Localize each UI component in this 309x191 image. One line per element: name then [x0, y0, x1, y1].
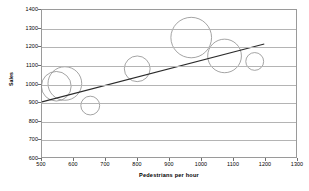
bubble-marker: [41, 71, 71, 101]
gridline: [42, 85, 296, 86]
x-axis-tick-label: 1300: [291, 161, 303, 167]
bubble-marker: [171, 17, 212, 57]
x-axis-tick-label: 1200: [259, 161, 271, 167]
gridline: [42, 66, 296, 67]
y-axis-tick-labels: 60070080090010001100120013001400: [0, 0, 38, 191]
bubble-marker: [208, 39, 242, 73]
x-axis-tick-mark: [265, 158, 266, 161]
y-axis-tick-mark: [38, 139, 41, 140]
y-axis-tick-mark: [38, 28, 41, 29]
x-axis-tick-label: 600: [68, 161, 77, 167]
x-axis-tick-label: 1000: [195, 161, 207, 167]
y-axis-tick-label: 1200: [26, 43, 38, 49]
data-layer: [42, 10, 296, 157]
y-axis-tick-label: 1100: [26, 62, 38, 68]
y-axis-tick-label: 1400: [26, 6, 38, 12]
x-axis-tick-label: 700: [100, 161, 109, 167]
y-axis-tick-mark: [38, 102, 41, 103]
bubble-marker: [48, 67, 82, 101]
bubble-chart: 60070080090010001100120013001400 Sales 5…: [0, 0, 309, 191]
x-axis-tick-mark: [105, 158, 106, 161]
gridline: [42, 47, 296, 48]
x-axis-tick-mark: [233, 158, 234, 161]
x-axis-tick-label: 1100: [227, 161, 239, 167]
bubble-marker: [246, 53, 264, 71]
y-axis-tick-mark: [38, 121, 41, 122]
y-axis-tick-label: 900: [29, 99, 38, 105]
y-axis-tick-mark: [38, 46, 41, 47]
y-axis-tick-mark: [38, 65, 41, 66]
gridline: [42, 122, 296, 123]
y-axis-title: Sales: [8, 59, 14, 99]
y-axis-tick-mark: [38, 9, 41, 10]
y-axis-tick-label: 1300: [26, 25, 38, 31]
gridline: [42, 29, 296, 30]
x-axis-tick-label: 500: [36, 161, 45, 167]
x-axis-tick-mark: [169, 158, 170, 161]
y-axis-tick-mark: [38, 84, 41, 85]
x-axis-tick-mark: [137, 158, 138, 161]
y-axis-tick-label: 800: [29, 118, 38, 124]
bubble-marker: [81, 96, 100, 115]
y-axis-tick-label: 700: [29, 136, 38, 142]
y-axis-tick-label: 1000: [26, 81, 38, 87]
trend-line: [42, 44, 264, 102]
x-axis-tick-label: 800: [132, 161, 141, 167]
plot-area: [41, 9, 297, 158]
x-axis-tick-mark: [73, 158, 74, 161]
gridline: [42, 140, 296, 141]
x-axis-tick-mark: [201, 158, 202, 161]
bubble-marker: [124, 56, 150, 82]
x-axis-tick-label: 900: [164, 161, 173, 167]
x-axis-tick-mark: [41, 158, 42, 161]
gridline: [42, 103, 296, 104]
x-axis-tick-mark: [297, 158, 298, 161]
x-axis-title: Pedestrians per hour: [41, 172, 297, 178]
